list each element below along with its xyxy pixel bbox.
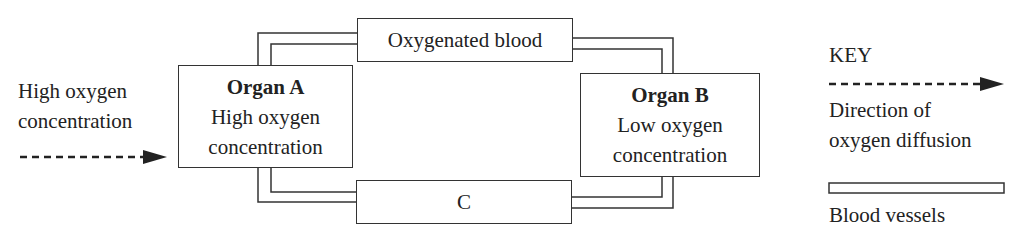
organ-b-title: Organ B xyxy=(581,80,759,110)
left-label-line1: High oxygen xyxy=(18,76,132,106)
vessel-c-label: C xyxy=(357,181,571,217)
vessel-c-box: C xyxy=(356,180,572,224)
organ-a-title: Organ A xyxy=(179,72,352,102)
key-vessel-label: Blood vessels xyxy=(829,200,945,230)
oxygenated-blood-box: Oxygenated blood xyxy=(357,18,573,62)
oxygenated-blood-label: Oxygenated blood xyxy=(358,19,572,55)
organ-b-box: Organ B Low oxygen concentration xyxy=(580,73,760,177)
left-label: High oxygen concentration xyxy=(18,76,132,136)
organ-b-line1: Low oxygen xyxy=(581,110,759,140)
organ-b-line2: concentration xyxy=(581,140,759,170)
left-label-line2: concentration xyxy=(18,106,132,136)
organ-a-line1: High oxygen xyxy=(179,102,352,132)
key-arrow-label-line2: oxygen diffusion xyxy=(829,125,972,155)
key-arrow-label-line1: Direction of xyxy=(829,95,972,125)
organ-a-line2: concentration xyxy=(179,132,352,162)
organ-a-box: Organ A High oxygen concentration xyxy=(178,65,353,168)
key-blood-vessel-icon xyxy=(829,183,1004,193)
key-diffusion-arrow-icon xyxy=(829,77,1004,91)
key-arrow-label: Direction of oxygen diffusion xyxy=(829,95,972,155)
diffusion-arrow-icon xyxy=(20,150,167,164)
key-title: KEY xyxy=(829,40,872,70)
